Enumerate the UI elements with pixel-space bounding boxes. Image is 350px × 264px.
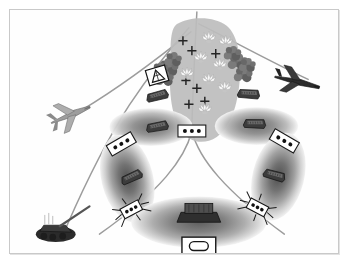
aircraft-fighter-left[interactable] (44, 93, 96, 137)
ground-unit-artillery-bottom-left[interactable] (36, 206, 90, 242)
ground-unit-launcher-upper-left[interactable] (146, 89, 170, 102)
aircraft-strike-right[interactable] (270, 63, 323, 100)
ground-unit-launcher-upper-right[interactable] (237, 87, 260, 100)
tactical-scene (10, 10, 338, 253)
figure-frame (9, 9, 339, 254)
unit-marker-center[interactable] (178, 125, 206, 137)
figure-canvas (0, 0, 350, 264)
objective-label-box[interactable] (182, 237, 216, 253)
ground-unit-launcher-mid-upper-right[interactable] (243, 118, 266, 130)
